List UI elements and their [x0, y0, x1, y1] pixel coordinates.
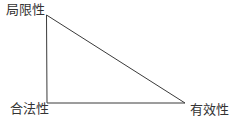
vertex-label-effectiveness: 有效性 [190, 103, 229, 117]
triangle-shape [47, 15, 186, 103]
vertex-label-limitation: 局限性 [6, 3, 45, 17]
vertex-label-legitimacy: 合法性 [10, 102, 49, 116]
